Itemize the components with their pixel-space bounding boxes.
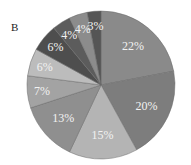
slice-percent-label: 20% [136, 99, 158, 113]
slice-percent-label: 6% [47, 40, 63, 54]
slice-percent-label: 3% [87, 19, 103, 33]
slice-percent-label: 13% [52, 111, 74, 125]
slice-percent-label: 22% [122, 39, 144, 53]
slice-percent-label: 6% [37, 60, 53, 74]
slice-percent-label: 15% [92, 128, 114, 142]
slice-percent-label: 7% [34, 84, 50, 98]
pie-chart: 22%20%15%13%7%6%6%4%4%3% [0, 0, 191, 165]
